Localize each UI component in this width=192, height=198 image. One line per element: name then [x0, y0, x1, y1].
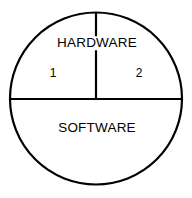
segment-1-label: 1	[50, 67, 57, 79]
segment-2-label: 2	[136, 67, 143, 79]
segmented-circle-diagram: HARDWARE SOFTWARE 1 2	[0, 0, 192, 198]
software-label: SOFTWARE	[55, 121, 139, 135]
diagram-canvas	[0, 0, 192, 198]
hardware-label: HARDWARE	[54, 36, 140, 50]
